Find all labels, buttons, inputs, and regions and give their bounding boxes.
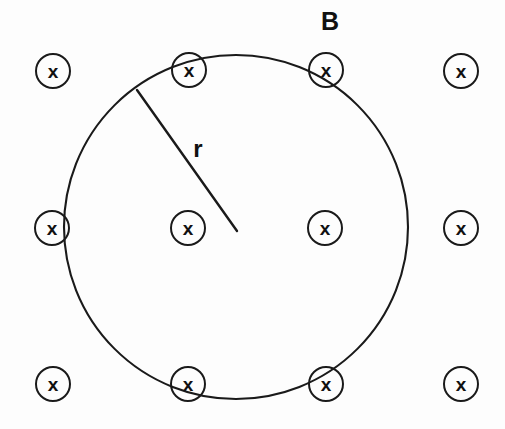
circular-loop xyxy=(64,55,408,399)
radius-label: r xyxy=(193,135,202,162)
field-marker-x-icon: x xyxy=(456,61,467,82)
field-marker-into-page: x xyxy=(444,54,478,88)
field-marker-into-page: x xyxy=(36,367,70,401)
field-marker-into-page: x xyxy=(171,367,205,401)
field-marker-x-icon: x xyxy=(183,218,194,239)
field-marker-x-icon: x xyxy=(321,374,332,395)
field-marker-x-icon: x xyxy=(184,60,195,81)
field-marker-x-icon: x xyxy=(48,61,59,82)
field-marker-x-icon: x xyxy=(48,374,59,395)
physics-diagram-canvas: r xxxxxxxxxxxx B xyxy=(0,0,505,429)
field-marker-x-icon: x xyxy=(320,218,331,239)
field-marker-into-page: x xyxy=(444,211,478,245)
field-marker-into-page: x xyxy=(309,53,343,87)
magnetic-field-label: B xyxy=(321,7,339,35)
field-marker-x-icon: x xyxy=(47,218,58,239)
field-marker-x-icon: x xyxy=(456,218,467,239)
radius-line xyxy=(137,90,237,231)
field-marker-into-page: x xyxy=(308,211,342,245)
field-marker-x-icon: x xyxy=(456,374,467,395)
field-marker-into-page: x xyxy=(309,367,343,401)
field-markers-group: xxxxxxxxxxxx xyxy=(35,53,478,401)
field-marker-into-page: x xyxy=(36,54,70,88)
circular-loop-group xyxy=(64,55,408,399)
field-marker-into-page: x xyxy=(171,211,205,245)
field-marker-x-icon: x xyxy=(183,374,194,395)
radius-indicator-group: r xyxy=(137,90,237,231)
magnetic-field-diagram: r xxxxxxxxxxxx B xyxy=(0,0,505,429)
field-marker-x-icon: x xyxy=(321,60,332,81)
field-marker-into-page: x xyxy=(444,367,478,401)
field-marker-into-page: x xyxy=(172,53,206,87)
